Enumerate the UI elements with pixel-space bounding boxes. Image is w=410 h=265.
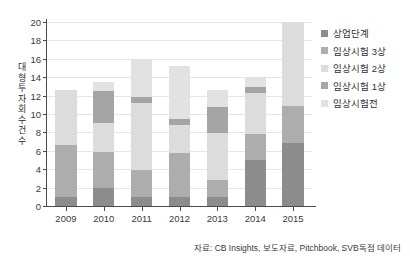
bar-2012[interactable]	[169, 66, 190, 206]
bar-segment	[245, 77, 266, 87]
bar-segment	[207, 133, 228, 179]
y-tick-label: 16	[30, 53, 41, 64]
bar-segment	[131, 197, 152, 206]
y-axis-line	[46, 19, 47, 206]
bar-segment	[131, 103, 152, 170]
x-tick-mark	[142, 207, 143, 211]
legend-label: 임상시험 1상	[333, 79, 386, 93]
y-tick-label: 14	[30, 72, 41, 83]
y-tick-label: 10	[30, 109, 41, 120]
x-tick-mark	[180, 207, 181, 211]
bar-segment	[207, 90, 228, 107]
bar-segment	[245, 93, 266, 134]
gridline	[47, 59, 312, 60]
bar-2010[interactable]	[93, 82, 114, 206]
legend-item-0[interactable]: 상업단계	[321, 26, 386, 40]
legend-swatch-icon	[321, 100, 328, 107]
legend-label: 상업단계	[333, 26, 369, 40]
x-tick-mark	[293, 207, 294, 211]
bar-segment	[93, 152, 114, 188]
bar-segment	[131, 59, 152, 97]
y-tick-label: 0	[36, 201, 41, 212]
bar-segment	[207, 107, 228, 134]
x-tick-label-2015: 2015	[282, 213, 303, 224]
legend-item-2[interactable]: 임상시험 2상	[321, 61, 386, 75]
bar-segment	[245, 134, 266, 160]
gridline	[47, 40, 312, 41]
bar-segment	[282, 106, 303, 143]
legend-label: 임상시험전	[333, 96, 378, 110]
x-tick-label-2010: 2010	[93, 213, 114, 224]
x-tick-label-2009: 2009	[55, 213, 76, 224]
legend-item-4[interactable]: 임상시험전	[321, 96, 386, 110]
y-axis-title: 대 형 투 자 회 수 건 수	[14, 62, 30, 146]
y-tick-label: 4	[36, 164, 41, 175]
bar-segment	[207, 180, 228, 197]
bar-segment	[245, 160, 266, 206]
legend-item-3[interactable]: 임상시험 1상	[321, 79, 386, 93]
bar-segment	[131, 170, 152, 197]
bar-segment	[93, 82, 114, 91]
y-tick-label: 8	[36, 127, 41, 138]
bar-2014[interactable]	[245, 77, 266, 206]
x-tick-mark	[255, 207, 256, 211]
source-note: 자료: CB Insights, 보도자료, Pitchbook, SVB독점 …	[194, 241, 401, 253]
bar-segment	[169, 66, 190, 118]
legend-swatch-icon	[321, 47, 328, 54]
plot-region: 0246810121416182020092010201120122013201…	[47, 22, 312, 206]
bar-segment	[282, 143, 303, 206]
x-axis-line	[46, 206, 316, 207]
x-tick-mark	[104, 207, 105, 211]
bar-segment	[93, 91, 114, 123]
bar-segment	[55, 90, 76, 145]
legend-swatch-icon	[321, 82, 328, 89]
legend-label: 임상시험 3상	[333, 44, 386, 58]
x-tick-mark	[217, 207, 218, 211]
gridline	[47, 22, 312, 23]
x-tick-label-2014: 2014	[245, 213, 266, 224]
bar-segment	[169, 153, 190, 197]
y-tick-label: 6	[36, 145, 41, 156]
bar-segment	[282, 22, 303, 106]
legend-label: 임상시험 2상	[333, 61, 386, 75]
plot-area: 0246810121416182020092010201120122013201…	[47, 22, 312, 206]
y-tick-label: 12	[30, 90, 41, 101]
bar-segment	[169, 125, 190, 153]
bar-2009[interactable]	[55, 90, 76, 206]
bar-2013[interactable]	[207, 90, 228, 206]
chart-figure: 대 형 투 자 회 수 건 수 024681012141618202009201…	[0, 0, 410, 265]
x-tick-label-2012: 2012	[169, 213, 190, 224]
bar-segment	[93, 123, 114, 152]
x-tick-label-2013: 2013	[207, 213, 228, 224]
y-tick-label: 20	[30, 17, 41, 28]
y-tick-label: 2	[36, 182, 41, 193]
bar-segment	[55, 145, 76, 197]
bar-2015[interactable]	[282, 22, 303, 206]
bar-2011[interactable]	[131, 59, 152, 206]
legend: 상업단계임상시험 3상임상시험 2상임상시험 1상임상시험전	[321, 26, 386, 110]
x-tick-label-2011: 2011	[131, 213, 151, 224]
bar-segment	[93, 188, 114, 206]
legend-swatch-icon	[321, 30, 328, 37]
legend-swatch-icon	[321, 65, 328, 72]
y-tick-label: 18	[30, 35, 41, 46]
legend-item-1[interactable]: 임상시험 3상	[321, 44, 386, 58]
x-tick-mark	[66, 207, 67, 211]
bar-segment	[207, 197, 228, 206]
